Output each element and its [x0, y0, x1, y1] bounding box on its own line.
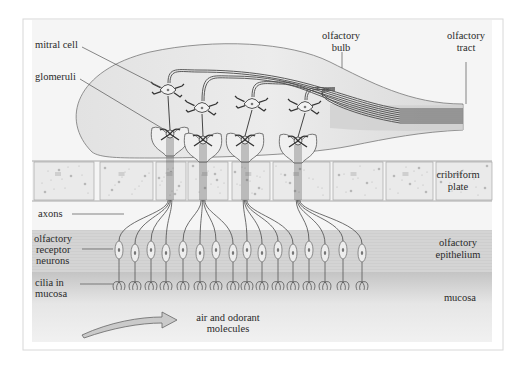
label-olfactory-bulb-2: bulb: [332, 42, 351, 53]
label-air-2: molecules: [207, 323, 250, 334]
label-olfactory-tract-1: olfactory: [447, 30, 486, 41]
label-receptor-neurons-1: olfactory: [34, 233, 73, 244]
label-mucosa: mucosa: [444, 292, 476, 303]
label-receptor-neurons-3: neurons: [36, 255, 69, 266]
label-cilia-1: cilia in: [35, 277, 65, 288]
label-glomeruli: glomeruli: [35, 71, 76, 82]
label-axons: axons: [38, 208, 63, 219]
olfactory-diagram: mitral cell glomeruli olfactory bulb olf…: [0, 0, 523, 379]
label-epithelium-2: epithelium: [436, 249, 481, 260]
label-cilia-2: mucosa: [35, 288, 67, 299]
label-olfactory-bulb-1: olfactory: [322, 30, 361, 41]
label-air-1: air and odorant: [196, 312, 260, 323]
cribriform-plate: [32, 161, 492, 201]
label-olfactory-tract-2: tract: [457, 42, 476, 53]
label-epithelium-1: olfactory: [439, 237, 478, 248]
label-cribriform-plate-2: plate: [448, 181, 469, 192]
label-cribriform-plate-1: cribriform: [436, 169, 479, 180]
label-receptor-neurons-2: receptor: [36, 244, 71, 255]
label-mitral-cell: mitral cell: [35, 39, 78, 50]
